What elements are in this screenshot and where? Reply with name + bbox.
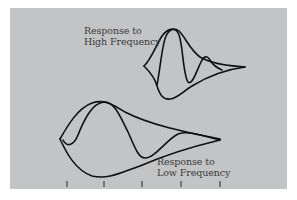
label-high-line2: High Frequency xyxy=(84,36,161,47)
low-inner-wave xyxy=(63,102,220,158)
label-low-frequency: Response to Low Frequency xyxy=(157,156,230,178)
label-low-line2: Low Frequency xyxy=(157,167,230,178)
label-high-frequency: Response to High Frequency xyxy=(84,25,161,47)
axis-ticks xyxy=(67,181,220,187)
label-high-line1: Response to xyxy=(84,25,161,36)
label-low-line1: Response to xyxy=(157,156,230,167)
high-inner-wave xyxy=(157,29,222,85)
